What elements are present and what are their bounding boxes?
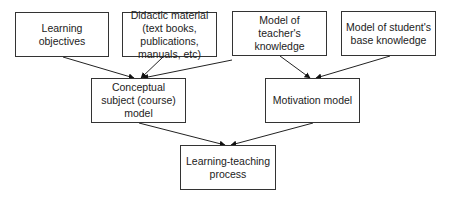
node-label: Motivation model bbox=[273, 94, 352, 107]
arrow-objectives-to-conceptual bbox=[63, 57, 134, 78]
node-didactic-material: Didactic material (text books, publicati… bbox=[122, 12, 217, 57]
node-label: Conceptual subject (course) model bbox=[96, 81, 181, 120]
node-label: Model of teacher's knowledge bbox=[237, 14, 322, 53]
node-motivation-model: Motivation model bbox=[265, 78, 360, 123]
node-label: Didactic material (text books, publicati… bbox=[127, 9, 212, 61]
node-teacher-knowledge-model: Model of teacher's knowledge bbox=[232, 11, 327, 56]
arrow-teacher-to-motivation bbox=[280, 56, 310, 78]
arrow-student-to-motivation bbox=[316, 56, 390, 78]
arrow-conceptual-to-process bbox=[139, 123, 225, 145]
node-student-knowledge-model: Model of student's base knowledge bbox=[341, 11, 436, 56]
diagram-canvas: Learning objectives Didactic material (t… bbox=[0, 0, 452, 201]
node-learning-objectives: Learning objectives bbox=[15, 12, 109, 57]
node-label: Learning-teaching process bbox=[185, 155, 271, 181]
node-label: Learning objectives bbox=[20, 22, 104, 48]
node-learning-teaching-process: Learning-teaching process bbox=[180, 145, 276, 190]
arrow-motivation-to-process bbox=[231, 123, 313, 145]
node-conceptual-subject-model: Conceptual subject (course) model bbox=[91, 78, 186, 123]
node-label: Model of student's base knowledge bbox=[346, 21, 431, 47]
